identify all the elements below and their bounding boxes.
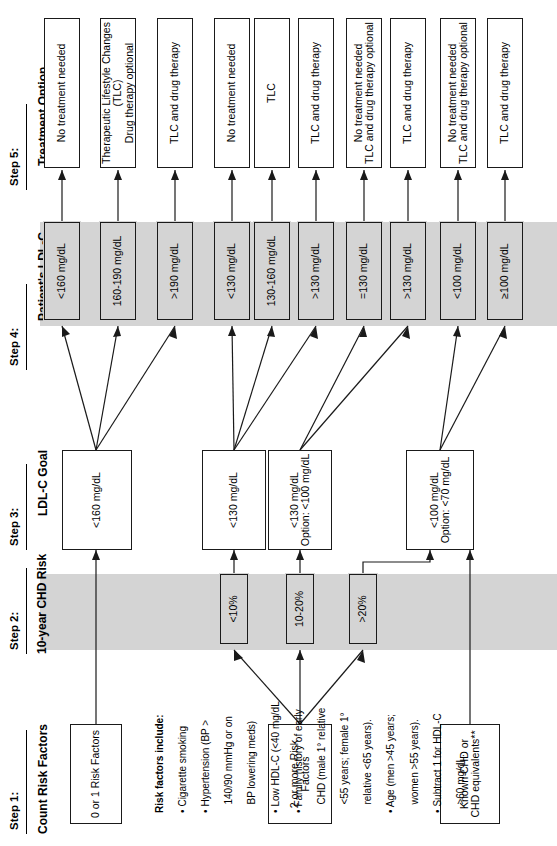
step-label-5: Step 5:	[8, 148, 20, 186]
ldl-goal-box[interactable]: <160 mg/dL	[62, 450, 132, 550]
ldl-goal-box[interactable]: <100 mg/dL Option: <70 mg/dL	[406, 450, 474, 550]
rotated-figure-container: Step 1: Count Risk Factors Step 2: 10-ye…	[0, 0, 557, 846]
patient-ldl-box[interactable]: 160-190 mg/dL	[100, 222, 136, 320]
treatment-box[interactable]: Therapeutic Lifestyle Changes (TLC) Drug…	[100, 18, 136, 168]
step-rule-2	[26, 568, 27, 654]
risk-factors-note-heading: Risk factors include:	[154, 715, 165, 813]
step-rule-5	[26, 104, 27, 190]
treatment-label: TLC	[266, 83, 278, 103]
treatment-label: Therapeutic Lifestyle Changes (TLC)	[101, 21, 124, 165]
chd-risk-label: >20%	[357, 595, 369, 622]
treatment-label: Drug therapy optional	[124, 43, 136, 143]
treatment-box[interactable]: No treatment needed TLC and drug therapy…	[346, 18, 382, 168]
step-rule-3	[26, 464, 27, 550]
treatment-label: TLC and drug therapy	[169, 42, 181, 144]
patient-ldl-label: 160-190 mg/dL	[112, 236, 124, 307]
patient-ldl-box[interactable]: <130 mg/dL	[214, 222, 250, 320]
ldl-goal-line: <130 mg/dL	[228, 472, 240, 528]
risk-factors-note-item: >60 mg/dL.	[455, 754, 466, 813]
column-title-chd-risk-line2: CHD Risk	[35, 554, 49, 609]
treatment-label: TLC and drug therapy	[499, 42, 511, 144]
patient-ldl-box[interactable]: 130-160 mg/dL	[254, 222, 290, 320]
patient-ldl-box[interactable]: >190 mg/dL	[157, 222, 193, 320]
treatment-label: TLC and drug therapy optional	[458, 22, 470, 164]
risk-factors-note-item: CHD (male 1° relative	[316, 708, 327, 813]
chd-risk-box[interactable]: 10-20%	[286, 574, 314, 644]
risk-factors-note-item: • Hypertension (BP >	[200, 720, 211, 813]
treatment-box[interactable]: TLC and drug therapy	[298, 18, 334, 168]
patient-ldl-label: =130 mg/dL	[358, 243, 370, 299]
risk-factors-note-item: • Family history of early	[293, 709, 304, 813]
treatment-label: TLC and drug therapy	[402, 42, 414, 144]
column-title-chd-risk-line1: 10-year	[35, 612, 49, 654]
risk-factors-note-item: • Cigarette smoking	[177, 726, 188, 813]
patient-ldl-box[interactable]: >130 mg/dL	[298, 222, 334, 320]
patient-ldl-label: <160 mg/dL	[56, 243, 68, 299]
ldl-goal-line: Option: <70 mg/dL	[440, 457, 452, 544]
risk-factors-note: Risk factors include: • Cigarette smokin…	[142, 654, 478, 824]
risk-factors-note-item: <55 years; female 1°	[339, 712, 350, 812]
patient-ldl-label: <100 mg/dL	[452, 243, 464, 299]
treatment-label: TLC and drug therapy optional	[364, 22, 376, 164]
risk-group-label: 0 or 1 Risk Factors	[90, 730, 102, 818]
step-label-4: Step 4:	[8, 328, 20, 366]
column-title-count-risk-factors: Count Risk Factors	[36, 684, 50, 834]
patient-ldl-box[interactable]: ≥100 mg/dL	[487, 222, 523, 320]
risk-factors-note-item: BP lowering meds)	[246, 721, 257, 813]
column-title-ldl-goal: LDL-C Goal	[36, 376, 50, 516]
treatment-label: TLC and drug therapy	[310, 42, 322, 144]
chd-risk-box[interactable]: >20%	[349, 574, 377, 644]
step-label-2: Step 2:	[8, 612, 20, 650]
step-rule-4	[26, 284, 27, 370]
ldl-goal-line: Option: <100 mg/dL	[300, 454, 312, 547]
treatment-box[interactable]: No treatment needed TLC and drug therapy…	[440, 18, 476, 168]
risk-factors-note-item: • Subtract 1 for HDL-C	[432, 713, 443, 813]
step-rule-1	[26, 730, 27, 834]
patient-ldl-box[interactable]: <160 mg/dL	[44, 222, 80, 320]
patient-ldl-box[interactable]: <100 mg/dL	[440, 222, 476, 320]
patient-ldl-label: >130 mg/dL	[310, 243, 322, 299]
risk-group-box[interactable]: 0 or 1 Risk Factors	[70, 724, 122, 824]
risk-factors-note-item: • Age (men >45 years;	[385, 714, 396, 813]
treatment-label: No treatment needed	[56, 44, 68, 143]
treatment-box[interactable]: No treatment needed	[214, 18, 250, 168]
treatment-box[interactable]: TLC and drug therapy	[157, 18, 193, 168]
risk-factors-note-item: relative <65 years).	[362, 719, 373, 813]
risk-factors-note-item: • Low HDL-C (<40 mg/dL	[270, 701, 281, 813]
ldl-goal-box[interactable]: <130 mg/dL Option: <100 mg/dL	[268, 450, 332, 550]
treatment-box[interactable]: TLC and drug therapy	[390, 18, 426, 168]
patient-ldl-box[interactable]: =130 mg/dL	[346, 222, 382, 320]
patient-ldl-label: ≥100 mg/dL	[499, 243, 511, 298]
column-title-chd-risk: 10-year CHD Risk	[36, 564, 49, 654]
chd-risk-box[interactable]: <10%	[220, 574, 248, 644]
treatment-box[interactable]: TLC	[254, 18, 290, 168]
step-label-3: Step 3:	[8, 508, 20, 546]
risk-factors-note-item: 140/90 mmHg or on	[223, 716, 234, 813]
treatment-box[interactable]: TLC and drug therapy	[487, 18, 523, 168]
risk-factors-note-item: women >55 years).	[409, 719, 420, 813]
patient-ldl-label: <130 mg/dL	[226, 243, 238, 299]
ldl-goal-box[interactable]: <130 mg/dL	[202, 450, 266, 550]
ldl-goal-line: <160 mg/dL	[91, 472, 103, 528]
chd-risk-label: <10%	[228, 595, 240, 622]
patient-ldl-label: 130-160 mg/dL	[266, 236, 278, 307]
patient-ldl-label: >130 mg/dL	[402, 243, 414, 299]
patient-ldl-box[interactable]: >130 mg/dL	[390, 222, 426, 320]
patient-ldl-label: >190 mg/dL	[169, 243, 181, 299]
chd-risk-label: 10-20%	[294, 591, 306, 627]
step-label-1: Step 1:	[8, 792, 20, 830]
flowchart: Step 1: Count Risk Factors Step 2: 10-ye…	[0, 0, 557, 846]
treatment-label: No treatment needed	[226, 44, 238, 143]
treatment-box[interactable]: No treatment needed	[44, 18, 80, 168]
